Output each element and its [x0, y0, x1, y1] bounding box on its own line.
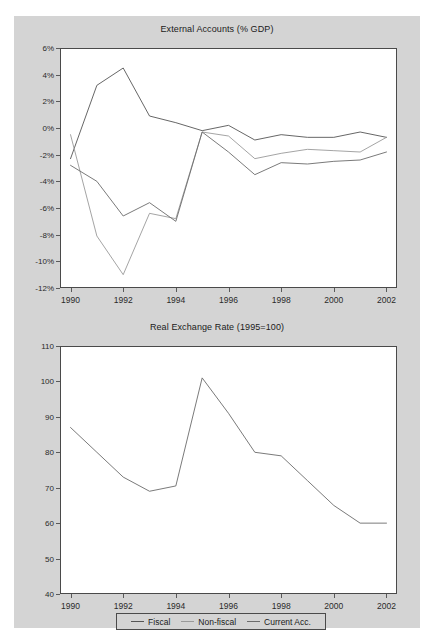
series-line [71, 378, 387, 523]
series-lines-external-accounts [14, 16, 420, 308]
legend-item-non-fiscal: Non-fiscal [181, 617, 236, 627]
series-line [71, 132, 387, 275]
legend-line-icon-fiscal [131, 621, 144, 622]
chart-legend: Fiscal Non-fiscal Current Acc. [116, 613, 326, 630]
series-lines-real-exchange-rate [14, 316, 420, 628]
series-line [71, 132, 387, 221]
legend-label-current-acc: Current Acc. [264, 617, 311, 627]
legend-item-fiscal: Fiscal [131, 617, 170, 627]
legend-line-icon-current-acc [247, 621, 260, 622]
figure-panel: External Accounts (% GDP) 6%4%2%0%-2%-4%… [14, 16, 420, 628]
legend-line-icon-non-fiscal [181, 621, 194, 622]
chart-real-exchange-rate: Real Exchange Rate (1995=100) 1101009080… [14, 316, 420, 628]
figure-page: External Accounts (% GDP) 6%4%2%0%-2%-4%… [0, 0, 434, 639]
chart-external-accounts: External Accounts (% GDP) 6%4%2%0%-2%-4%… [14, 16, 420, 308]
legend-item-current-acc: Current Acc. [247, 617, 311, 627]
legend-label-non-fiscal: Non-fiscal [198, 617, 236, 627]
series-line [71, 68, 387, 159]
legend-label-fiscal: Fiscal [148, 617, 170, 627]
